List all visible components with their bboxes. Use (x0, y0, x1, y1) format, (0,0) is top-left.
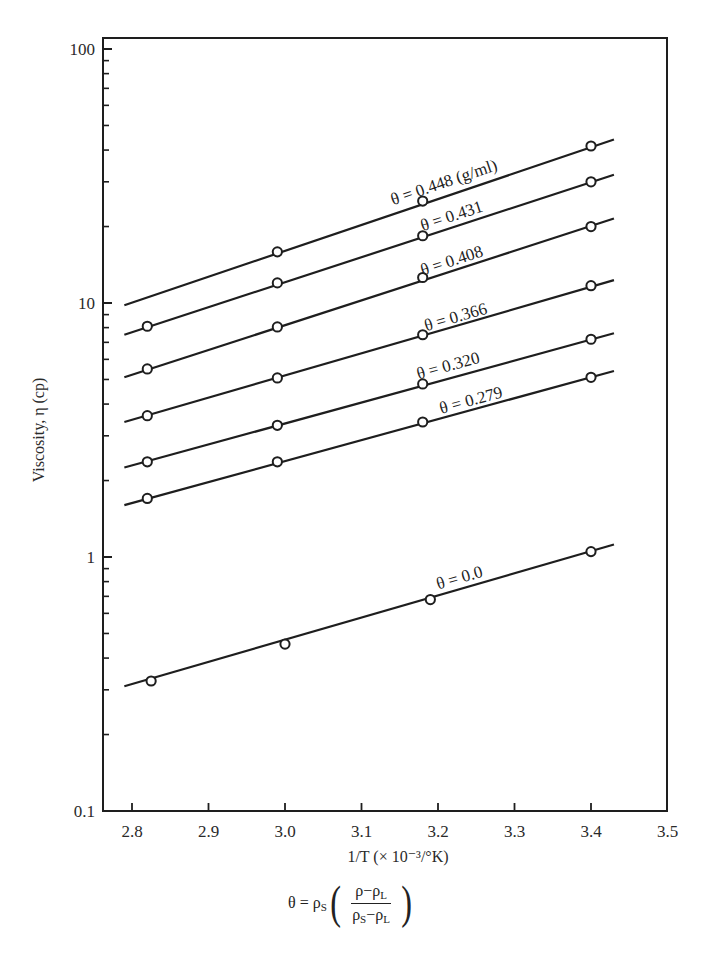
y-tick-label: 0.1 (74, 802, 95, 821)
data-point-marker (418, 417, 427, 426)
series-labels: θ = 0.448 (g/ml)θ = 0.431θ = 0.408θ = 0.… (388, 155, 504, 593)
series-line-theta-0-279 (124, 371, 614, 505)
theta-definition-formula: θ = ρS ( ρ−ρL ρS−ρL ) (288, 880, 415, 926)
x-tick-label: 3.4 (580, 822, 602, 841)
y-tick-label: 100 (70, 40, 96, 59)
y-tick-label: 10 (78, 294, 95, 313)
data-point-marker (273, 421, 282, 430)
series-label: θ = 0.279 (437, 382, 504, 417)
data-point-marker (586, 373, 595, 382)
data-point-marker (586, 335, 595, 344)
x-tick-label: 3.2 (427, 822, 448, 841)
formula-numerator: ρ−ρL (351, 882, 391, 904)
series-lines (124, 140, 614, 687)
x-tick-label: 3.1 (351, 822, 372, 841)
formula-lhs: θ = ρS (288, 894, 327, 913)
plot-border (103, 38, 667, 811)
series-label: θ = 0.408 (418, 242, 485, 280)
x-tick-label: 2.9 (198, 822, 219, 841)
data-point-marker (280, 640, 289, 649)
y-axis-title: Viscosity, η (cp) (30, 378, 48, 483)
data-point-marker (147, 676, 156, 685)
series-label: θ = 0.448 (g/ml) (388, 155, 499, 209)
x-tick-label: 3.0 (274, 822, 295, 841)
data-point-marker (586, 281, 595, 290)
formula-fraction: ρ−ρL ρS−ρL (348, 882, 394, 925)
data-point-marker (273, 247, 282, 256)
series-line-theta-0 (124, 544, 614, 686)
data-point-marker (143, 364, 152, 373)
data-point-marker (143, 457, 152, 466)
data-point-marker (143, 322, 152, 331)
x-tick-label: 3.3 (504, 822, 525, 841)
y-tick-label: 1 (87, 548, 96, 567)
formula-denominator: ρS−ρL (348, 904, 394, 925)
data-point-marker (273, 373, 282, 382)
data-point-marker (273, 278, 282, 287)
data-point-marker (143, 411, 152, 420)
plot-frame (103, 38, 667, 811)
data-point-marker (586, 547, 595, 556)
formula-close-paren: ) (401, 880, 412, 926)
viscosity-chart: 0.1110100 2.82.93.03.13.23.33.43.5 θ = 0… (0, 0, 716, 979)
series-line-theta-0-431 (124, 175, 614, 335)
data-point-marker (586, 222, 595, 231)
data-point-marker (586, 177, 595, 186)
formula-open-paren: ( (330, 880, 341, 926)
data-point-marker (273, 457, 282, 466)
data-point-marker (426, 595, 435, 604)
data-point-marker (143, 494, 152, 503)
data-point-marker (273, 322, 282, 331)
series-label: θ = 0.366 (422, 299, 489, 335)
x-axis-ticks: 2.82.93.03.13.23.33.43.5 (121, 803, 678, 841)
x-tick-label: 2.8 (121, 822, 142, 841)
x-tick-label: 3.5 (657, 822, 678, 841)
series-line-theta-0-448 (124, 140, 614, 306)
x-axis-title: 1/T (× 10⁻³/°K) (347, 848, 448, 866)
data-point-marker (586, 141, 595, 150)
y-axis-ticks: 0.1110100 (70, 40, 113, 821)
